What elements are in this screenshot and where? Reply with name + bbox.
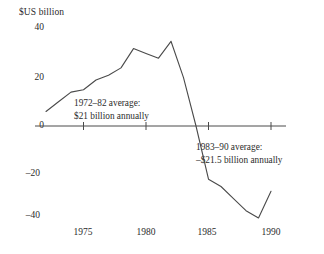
plot-area (0, 0, 324, 254)
data-series-line (46, 41, 271, 218)
line-chart: $US billion 40 20 0 –20 –40 1975 1980 19… (0, 0, 324, 254)
